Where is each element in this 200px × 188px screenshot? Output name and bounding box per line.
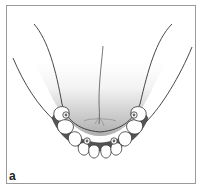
jaw-illustration xyxy=(0,0,200,188)
tooth xyxy=(111,143,122,156)
dental-diagram: a xyxy=(0,0,200,188)
tooth xyxy=(101,145,112,158)
tooth xyxy=(57,120,73,134)
panel-label: a xyxy=(9,170,16,182)
tooth xyxy=(89,145,100,158)
tooth xyxy=(127,120,143,134)
tooth xyxy=(118,132,131,146)
